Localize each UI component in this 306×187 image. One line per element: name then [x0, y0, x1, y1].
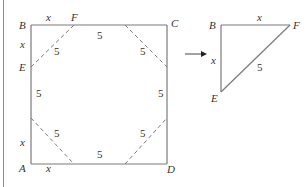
label-5-cut-top-right: 5 — [140, 45, 146, 57]
triangle-label-x-be: x — [210, 54, 216, 66]
label-x-be: x — [19, 38, 25, 50]
vertex-label-d: D — [166, 163, 175, 175]
label-x-bottom-left: x — [45, 162, 51, 174]
label-x-bf: x — [45, 11, 51, 23]
cut-bottom-left — [31, 118, 74, 164]
label-5-cut-bottom-left: 5 — [54, 127, 60, 139]
cut-top-left — [31, 25, 74, 67]
right-arrow-icon — [185, 51, 207, 57]
triangle-vertex-label-f: F — [292, 19, 300, 31]
label-5-bottom: 5 — [97, 148, 103, 160]
vertex-label-c: C — [171, 17, 179, 29]
vertex-label-f: F — [70, 11, 78, 23]
vertex-label-b: B — [19, 19, 26, 31]
geometry-figure: B F C D A E x x x x 5 5 5 5 5 5 5 5 B F … — [0, 0, 306, 187]
label-x-left-bottom: x — [19, 136, 25, 148]
triangle-side-ef — [221, 25, 290, 92]
square-abcd — [31, 25, 167, 164]
label-5-top: 5 — [97, 29, 103, 41]
dashed-cuts — [31, 25, 167, 164]
vertex-label-a: A — [18, 162, 26, 174]
cut-top-right — [125, 25, 167, 67]
label-5-cut-top-left: 5 — [54, 45, 60, 57]
triangle-vertex-label-b: B — [209, 19, 216, 31]
cut-bottom-right — [125, 118, 167, 164]
vertex-label-e: E — [18, 61, 26, 73]
label-5-left: 5 — [36, 87, 42, 99]
triangle-label-5-ef: 5 — [257, 61, 263, 73]
triangle-bef — [221, 25, 290, 92]
triangle-vertex-label-e: E — [210, 92, 218, 104]
label-5-cut-bottom-right: 5 — [140, 127, 146, 139]
triangle-label-x-bf: x — [256, 11, 262, 23]
label-5-right: 5 — [158, 87, 164, 99]
